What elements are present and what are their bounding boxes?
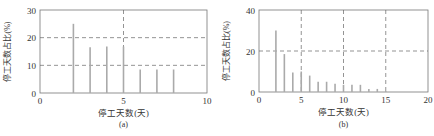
x-tick-label: 5 [121,96,126,106]
x-tick-label: 10 [203,96,213,106]
y-tick-label: 40 [246,6,256,16]
panel-caption: (a) [119,120,128,129]
x-tick-label: 20 [424,95,434,105]
chart-panel-a: 01020300510停工天数(天)停工天数占比(%)(a) [2,6,212,130]
x-axis-label: 停工天数(天) [318,107,369,117]
chart-panel-b: 0204005101520停工天数(天)停工天数占比(%)(b) [221,6,433,130]
figure: 01020300510停工天数(天)停工天数占比(%)(a)0204005101… [0,0,434,136]
y-tick-label: 0 [32,89,37,99]
x-tick-label: 0 [38,96,43,106]
x-tick-label: 15 [381,95,391,105]
x-tick-label: 10 [339,95,349,105]
y-tick-label: 10 [27,61,37,71]
chart-figure: 01020300510停工天数(天)停工天数占比(%)(a)0204005101… [0,0,434,136]
y-tick-label: 0 [251,88,256,98]
y-tick-label: 20 [246,47,256,57]
x-tick-label: 0 [257,95,262,105]
y-axis-label: 停工天数占比(%) [2,21,12,81]
x-axis-label: 停工天数(天) [98,108,149,118]
x-tick-label: 5 [299,95,304,105]
y-tick-label: 30 [27,6,37,16]
y-tick-label: 20 [27,33,37,43]
y-axis-label: 停工天数占比(%) [221,21,231,81]
panel-caption: (b) [339,120,349,129]
